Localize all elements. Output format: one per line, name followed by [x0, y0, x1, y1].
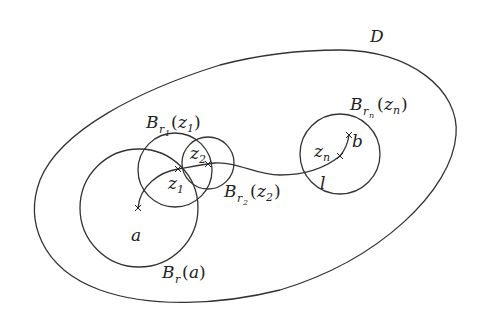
svg-text:(: (	[250, 181, 257, 201]
svg-text:B: B	[223, 181, 237, 201]
svg-text:): )	[199, 262, 206, 282]
svg-text:2: 2	[198, 153, 206, 166]
svg-text:(: (	[377, 94, 384, 114]
label-b: b	[352, 131, 363, 151]
svg-text:B: B	[145, 112, 159, 132]
label-br2-z2: B r 2 ( z 2 )	[223, 181, 281, 207]
svg-text:(: (	[171, 112, 178, 132]
domain-boundary	[35, 50, 457, 302]
point-zn-marker	[337, 153, 343, 159]
svg-text:n: n	[393, 104, 400, 117]
label-z1: z 1	[167, 173, 184, 196]
svg-text:1: 1	[165, 129, 170, 138]
svg-text:B: B	[161, 262, 175, 282]
svg-text:1: 1	[187, 122, 194, 135]
label-zn: z n	[313, 141, 330, 164]
svg-text:): )	[401, 94, 408, 114]
label-a: a	[131, 225, 141, 245]
svg-text:n: n	[323, 151, 330, 164]
label-l: l	[320, 173, 325, 193]
svg-text:(: (	[182, 262, 189, 282]
label-br1-z1: B r 1 ( z 1 )	[145, 112, 201, 138]
svg-text:n: n	[369, 111, 374, 120]
svg-text:r: r	[175, 273, 181, 286]
svg-text:): )	[194, 112, 201, 132]
ball-brn-zn	[300, 114, 380, 194]
svg-text:): )	[274, 181, 281, 201]
svg-text:2: 2	[265, 191, 273, 204]
svg-text:2: 2	[242, 198, 248, 207]
diagram-canvas: D B r 1 ( z 1 ) B r 2 ( z 2 ) B r n ( z …	[0, 0, 483, 321]
label-br-a: B r ( a )	[161, 262, 206, 286]
svg-text:1: 1	[177, 183, 184, 196]
label-d: D	[369, 26, 384, 46]
label-brn-zn: B r n ( z n )	[349, 94, 408, 120]
svg-text:B: B	[349, 94, 363, 114]
svg-text:a: a	[189, 262, 199, 282]
